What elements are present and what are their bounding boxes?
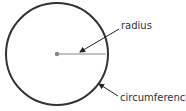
circumference-label: circumference	[120, 92, 186, 103]
radius-arrow	[80, 29, 119, 52]
circumference-arrow	[99, 84, 118, 96]
radius-label: radius	[121, 20, 152, 31]
